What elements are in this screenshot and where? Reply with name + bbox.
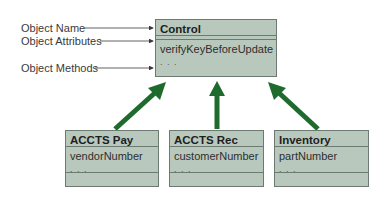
class-attribute: partNumber bbox=[275, 149, 368, 163]
class-box-inventory: Inventory partNumber . . . bbox=[274, 130, 369, 187]
inheritance-arrow-accts-rec bbox=[209, 81, 225, 129]
class-box-accts-pay: ACCTS Pay vendorNumber . . . bbox=[65, 130, 159, 187]
class-box-control: Control verifyKeyBeforeUpdate . . . bbox=[155, 19, 277, 77]
legend-object-name: Object Name bbox=[21, 22, 85, 34]
class-box-accts-rec: ACCTS Rec customerNumber . . . bbox=[169, 130, 264, 187]
legend-object-methods: Object Methods bbox=[21, 62, 98, 74]
class-attribute: vendorNumber bbox=[66, 149, 158, 163]
class-name: ACCTS Rec bbox=[170, 131, 263, 147]
inheritance-arrow-inventory bbox=[268, 82, 318, 129]
class-method-ellipsis: . . . bbox=[156, 56, 276, 68]
legend-object-attributes: Object Attributes bbox=[21, 35, 102, 47]
class-methods-section bbox=[66, 172, 158, 186]
class-name: Inventory bbox=[275, 131, 368, 147]
class-methods-section bbox=[275, 172, 368, 186]
class-attribute: customerNumber bbox=[170, 149, 263, 163]
class-method: verifyKeyBeforeUpdate bbox=[156, 42, 276, 56]
class-attributes-section bbox=[156, 36, 276, 40]
class-methods-section bbox=[170, 172, 263, 186]
class-name: Control bbox=[156, 20, 276, 36]
class-name: ACCTS Pay bbox=[66, 131, 158, 147]
inheritance-arrow-accts-pay bbox=[115, 82, 166, 129]
